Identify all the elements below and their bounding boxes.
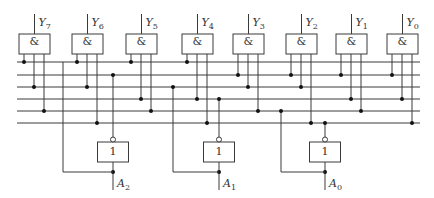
- junction-dot: [217, 97, 221, 101]
- input-label-a2: A2: [117, 177, 130, 192]
- junction-dot: [390, 73, 394, 77]
- junction-dot: [22, 60, 26, 64]
- junction-dot: [75, 60, 79, 64]
- decoder-diagram: [0, 0, 434, 198]
- inverter-symbol: 1: [204, 145, 235, 158]
- junction-dot: [95, 121, 99, 125]
- output-label-y4: Y4: [202, 16, 214, 31]
- junction-dot: [85, 85, 89, 89]
- junction-dot: [205, 121, 209, 125]
- and-symbol: &: [126, 35, 157, 48]
- output-label-y1: Y1: [356, 16, 368, 31]
- output-label-y6: Y6: [92, 16, 104, 31]
- output-label-y3: Y3: [253, 16, 265, 31]
- junction-dot: [139, 97, 143, 101]
- junction-dot: [359, 109, 363, 113]
- inverter-bubble: [217, 137, 222, 142]
- input-label-a0: A0: [329, 177, 342, 192]
- and-symbol: &: [286, 35, 317, 48]
- junction-dot: [149, 109, 153, 113]
- junction-dot: [289, 73, 293, 77]
- junction-dot: [410, 121, 414, 125]
- inverter-symbol: 1: [98, 145, 129, 158]
- junction-dot: [236, 73, 240, 77]
- junction-dot: [171, 85, 175, 89]
- junction-dot: [246, 85, 250, 89]
- junction-dot: [279, 109, 283, 113]
- junction-dot: [129, 60, 133, 64]
- junction-dot: [185, 60, 189, 64]
- junction-dot: [323, 121, 327, 125]
- junction-dot: [32, 85, 36, 89]
- and-symbol: &: [387, 35, 418, 48]
- inverter-bubble: [111, 137, 116, 142]
- output-label-y2: Y2: [306, 16, 318, 31]
- and-symbol: &: [336, 35, 367, 48]
- output-label-y5: Y5: [146, 16, 158, 31]
- junction-dot: [299, 85, 303, 89]
- junction-dot: [309, 121, 313, 125]
- inverter-symbol: 1: [310, 145, 341, 158]
- junction-dot: [42, 109, 46, 113]
- and-symbol: &: [233, 35, 264, 48]
- inverter-bubble: [323, 137, 328, 142]
- junction-dot: [256, 109, 260, 113]
- junction-dot: [339, 73, 343, 77]
- junction-dot: [111, 73, 115, 77]
- and-symbol: &: [72, 35, 103, 48]
- and-symbol: &: [19, 35, 50, 48]
- output-label-y0: Y0: [407, 16, 419, 31]
- junction-dot: [349, 97, 353, 101]
- output-label-y7: Y7: [39, 16, 51, 31]
- input-label-a1: A1: [223, 177, 236, 192]
- and-symbol: &: [182, 35, 213, 48]
- junction-dot: [400, 97, 404, 101]
- junction-dot: [195, 97, 199, 101]
